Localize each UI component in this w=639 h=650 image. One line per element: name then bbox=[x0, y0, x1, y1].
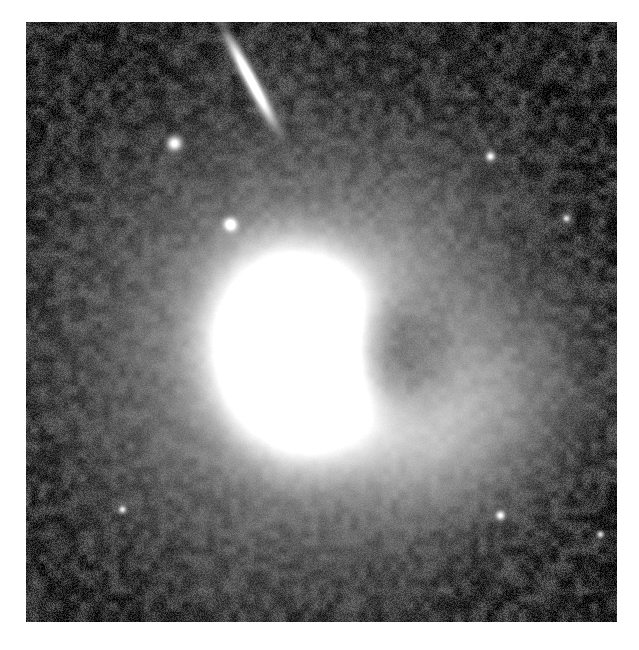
image-page bbox=[0, 0, 639, 650]
astronomical-plate bbox=[26, 22, 617, 622]
sky-canvas bbox=[26, 22, 617, 622]
